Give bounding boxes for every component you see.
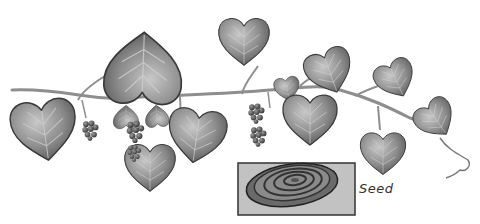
seed-inset: [238, 158, 355, 215]
seed-label: Seed: [359, 181, 394, 196]
leaves: [8, 19, 463, 192]
vine-illustration: [0, 0, 480, 224]
